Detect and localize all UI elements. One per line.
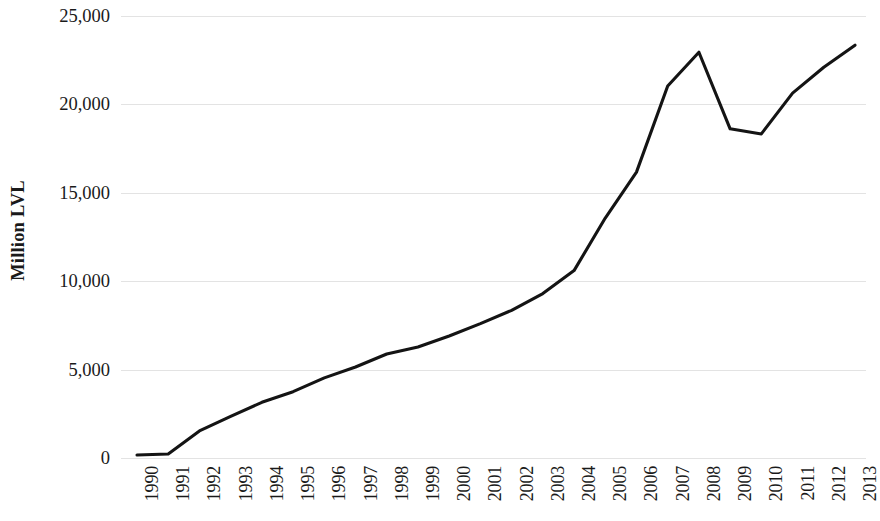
x-tick-label-text: 1993 xyxy=(238,466,254,501)
x-tick-label-2006: 2006 xyxy=(643,466,659,501)
x-tick-label-2013: 2013 xyxy=(862,466,878,501)
x-tick-label-text: 1995 xyxy=(300,466,316,501)
x-tick-label-text: 1998 xyxy=(394,466,410,501)
x-tick-label-text: 2001 xyxy=(487,466,503,501)
x-tick-label-2003: 2003 xyxy=(550,466,566,501)
x-tick-label-text: 1990 xyxy=(144,466,160,501)
x-tick-label-text: 2012 xyxy=(831,466,847,501)
x-tick-label-1992: 1992 xyxy=(206,466,222,501)
series-path xyxy=(137,45,855,455)
x-tick-label-1995: 1995 xyxy=(300,466,316,501)
x-tick-label-text: 2013 xyxy=(862,466,878,501)
series-line-million-lvl xyxy=(121,10,866,465)
x-tick-label-2000: 2000 xyxy=(456,466,472,501)
y-tick-label-10000: 10,000 xyxy=(59,271,110,292)
x-tick-label-1998: 1998 xyxy=(394,466,410,501)
y-tick-label-0: 0 xyxy=(101,448,110,469)
x-tick-label-2004: 2004 xyxy=(581,466,597,501)
x-tick-label-text: 2003 xyxy=(550,466,566,501)
x-tick-label-2009: 2009 xyxy=(737,466,753,501)
x-tick-label-2011: 2011 xyxy=(800,466,816,501)
y-axis-title-text: Million LVL xyxy=(8,180,29,281)
x-tick-label-text: 2008 xyxy=(706,466,722,501)
x-tick-label-2005: 2005 xyxy=(612,466,628,501)
x-tick-label-1999: 1999 xyxy=(425,466,441,501)
x-tick-label-2008: 2008 xyxy=(706,466,722,501)
x-tick-label-1993: 1993 xyxy=(238,466,254,501)
y-tick-label-15000: 15,000 xyxy=(59,182,110,203)
x-tick-label-text: 1996 xyxy=(331,466,347,501)
x-tick-label-2001: 2001 xyxy=(487,466,503,501)
x-axis-tick-labels: 1990199119921993199419951996199719981999… xyxy=(121,466,866,521)
y-tick-label-20000: 20,000 xyxy=(59,94,110,115)
x-tick-label-1991: 1991 xyxy=(175,466,191,501)
x-tick-label-1990: 1990 xyxy=(144,466,160,501)
x-tick-label-2002: 2002 xyxy=(519,466,535,501)
x-tick-label-text: 2011 xyxy=(800,466,816,501)
y-tick-label-5000: 5,000 xyxy=(68,359,110,380)
x-tick-label-text: 2000 xyxy=(456,466,472,501)
x-tick-label-text: 2007 xyxy=(675,466,691,501)
x-tick-label-2010: 2010 xyxy=(768,466,784,501)
y-tick-label-25000: 25,000 xyxy=(59,6,110,27)
x-tick-label-text: 2002 xyxy=(519,466,535,501)
x-tick-label-text: 2005 xyxy=(612,466,628,501)
x-tick-label-text: 2004 xyxy=(581,466,597,501)
x-tick-label-text: 2010 xyxy=(768,466,784,501)
x-tick-label-2007: 2007 xyxy=(675,466,691,501)
x-tick-label-text: 2009 xyxy=(737,466,753,501)
x-tick-label-1996: 1996 xyxy=(331,466,347,501)
x-tick-label-2012: 2012 xyxy=(831,466,847,501)
x-tick-label-1997: 1997 xyxy=(363,466,379,501)
x-tick-label-text: 2006 xyxy=(643,466,659,501)
x-tick-label-text: 1994 xyxy=(269,466,285,501)
y-axis-title: Million LVL xyxy=(0,0,36,460)
x-tick-label-text: 1999 xyxy=(425,466,441,501)
x-tick-label-text: 1997 xyxy=(363,466,379,501)
plot-area xyxy=(121,10,866,465)
x-tick-label-text: 1992 xyxy=(206,466,222,501)
y-axis-tick-labels: 05,00010,00015,00020,00025,000 xyxy=(36,0,118,470)
x-tick-label-text: 1991 xyxy=(175,466,191,501)
x-tick-label-1994: 1994 xyxy=(269,466,285,501)
